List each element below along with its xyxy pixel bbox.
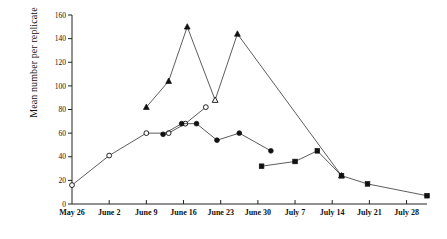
y-tick-label: 120 — [55, 58, 67, 67]
x-tick-label: July 14 — [320, 208, 345, 217]
series-open-circle-series — [70, 105, 209, 188]
y-axis-label: Mean number per replicate — [28, 0, 39, 143]
x-tick-label: June 30 — [245, 208, 271, 217]
series-filled-circle-series — [161, 121, 274, 153]
x-axis: May 26June 2June 9June 16June 23June 30J… — [59, 200, 427, 217]
y-tick-label: 60 — [59, 129, 67, 138]
x-tick-label: July 28 — [394, 208, 419, 217]
data-point — [212, 97, 218, 102]
data-point — [166, 78, 172, 83]
y-tick-label: 100 — [55, 82, 67, 91]
x-tick-label: June 9 — [135, 208, 157, 217]
data-point — [203, 105, 208, 110]
data-point — [107, 153, 112, 158]
data-point — [161, 132, 166, 137]
data-point — [179, 121, 184, 126]
y-tick-label: 160 — [55, 11, 67, 20]
data-series — [70, 24, 430, 198]
data-point — [215, 138, 220, 143]
y-tick-label: 40 — [59, 152, 67, 161]
y-axis: 020406080100120140160 — [55, 11, 72, 209]
data-point — [184, 24, 190, 29]
x-tick-label: June 2 — [98, 208, 120, 217]
data-point — [365, 182, 370, 187]
data-point — [144, 131, 149, 136]
x-tick-label: July 7 — [285, 208, 306, 217]
data-point — [268, 148, 273, 153]
x-tick-label: June 23 — [207, 208, 233, 217]
y-tick-label: 20 — [59, 176, 67, 185]
chart-container: Mean number per replicate 02040608010012… — [0, 0, 447, 239]
series-filled-square-series — [259, 149, 429, 198]
y-tick-label: 80 — [59, 105, 67, 114]
data-point — [70, 183, 75, 188]
data-point — [259, 164, 264, 169]
data-point — [237, 131, 242, 136]
x-tick-label: June 16 — [170, 208, 196, 217]
data-point — [315, 149, 320, 154]
y-tick-label: 140 — [55, 34, 67, 43]
data-point — [293, 159, 298, 164]
data-point — [235, 31, 241, 36]
data-point — [339, 173, 344, 178]
series-triangle-series — [143, 24, 344, 178]
data-point — [194, 121, 199, 126]
x-tick-label: July 21 — [357, 208, 382, 217]
x-tick-label: May 26 — [59, 208, 85, 217]
plot-area: 020406080100120140160 May 26June 2June 9… — [72, 15, 427, 204]
data-point — [425, 193, 430, 198]
plot-svg: 020406080100120140160 May 26June 2June 9… — [72, 15, 427, 215]
